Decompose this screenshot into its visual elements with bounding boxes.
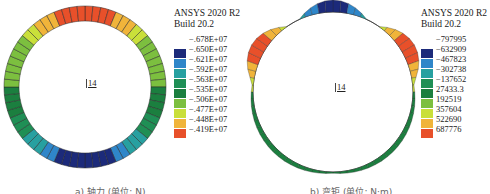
- build-label: Build 20.2: [421, 19, 490, 30]
- legend-label: −.592E+07: [189, 64, 227, 74]
- legend-row: −.650E+07: [174, 44, 246, 54]
- bending-moment-panel: 14 ANSYS 2020 R2 Build 20.2 −797995−6329…: [245, 0, 490, 194]
- legend-row: 192519: [421, 94, 490, 104]
- axial-force-panel: 14 ANSYS 2020 R2 Build 20.2 −.678E+07−.6…: [0, 0, 245, 194]
- legend-row: 687776: [421, 124, 490, 134]
- legend-row: −302738: [421, 64, 490, 74]
- legend-label: −137652: [436, 74, 466, 84]
- legend-label: −.535E+07: [189, 84, 227, 94]
- legend-row: 27433.3: [421, 84, 490, 94]
- legend-label: −.419E+07: [189, 124, 227, 134]
- legend-row: −.592E+07: [174, 64, 246, 74]
- legend-label: −.678E+07: [189, 34, 227, 44]
- legend-row: −.448E+07: [174, 114, 246, 124]
- legend-label: 687776: [436, 124, 462, 134]
- legend-row: −137652: [421, 74, 490, 84]
- axial-force-caption: a) 轴力 (单位: N): [75, 185, 145, 194]
- axial-force-legend: ANSYS 2020 R2 Build 20.2 −.678E+07−.650E…: [174, 8, 246, 134]
- legend-row: −632909: [421, 44, 490, 54]
- legend-row: −.678E+07: [174, 34, 246, 44]
- bending-moment-plot: [245, 0, 420, 180]
- legend-swatch: [174, 129, 186, 138]
- legend-row: −.419E+07: [174, 124, 246, 134]
- legend-row: 522690: [421, 114, 490, 124]
- legend-row: −797995: [421, 34, 490, 44]
- legend-label: −.506E+07: [189, 94, 227, 104]
- bending-moment-legend: ANSYS 2020 R2 Build 20.2 −797995−632909−…: [421, 8, 490, 134]
- legend-swatch: [421, 129, 433, 138]
- legend-row: −.506E+07: [174, 94, 246, 104]
- node-label: 14: [86, 79, 97, 88]
- legend-label: −467823: [436, 54, 466, 64]
- software-title: ANSYS 2020 R2: [174, 8, 246, 19]
- legend-row: 357604: [421, 104, 490, 114]
- legend-label: −797995: [436, 34, 466, 44]
- legend-label: −.621E+07: [189, 54, 227, 64]
- legend-label: −302738: [436, 64, 466, 74]
- legend-label: 192519: [436, 94, 462, 104]
- legend-label: −.448E+07: [189, 114, 227, 124]
- legend-row: −.621E+07: [174, 54, 246, 64]
- build-label: Build 20.2: [174, 19, 246, 30]
- bending-moment-caption: b) 弯矩 (单位: N·m): [310, 185, 392, 194]
- axial-force-ring-plot: [0, 0, 175, 180]
- legend-label: −.650E+07: [189, 44, 227, 54]
- legend-label: 522690: [436, 114, 462, 124]
- legend-row: −.535E+07: [174, 84, 246, 94]
- node-label: 14: [335, 83, 346, 92]
- legend-row: −.563E+07: [174, 74, 246, 84]
- legend-label: 357604: [436, 104, 462, 114]
- legend-row: −.477E+07: [174, 104, 246, 114]
- legend-label: 27433.3: [436, 84, 464, 94]
- software-title: ANSYS 2020 R2: [421, 8, 490, 19]
- legend-label: −.477E+07: [189, 104, 227, 114]
- legend-row: −467823: [421, 54, 490, 64]
- legend-label: −632909: [436, 44, 466, 54]
- legend-label: −.563E+07: [189, 74, 227, 84]
